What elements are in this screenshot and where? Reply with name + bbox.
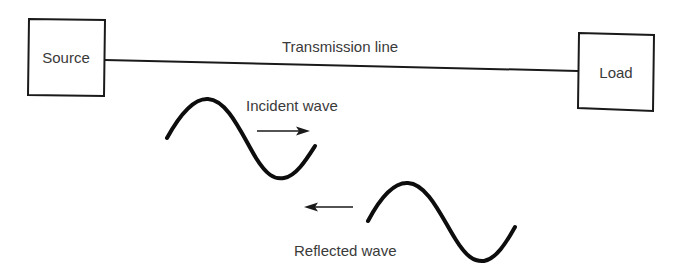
reflected-wave-group: Reflected wave: [294, 183, 515, 261]
load-label: Load: [599, 64, 632, 81]
load-node: Load: [578, 33, 654, 111]
incident-wave-group: Incident wave: [167, 97, 338, 178]
transmission-line-diagram: Transmission line Source Load Incident w…: [0, 0, 673, 277]
transmission-line: Transmission line: [105, 38, 578, 71]
transmission-line-connector: [105, 60, 578, 71]
incident-wave-label: Incident wave: [246, 97, 338, 114]
arrow-right-icon: [257, 127, 310, 136]
reflected-wave-label: Reflected wave: [294, 242, 397, 259]
source-node: Source: [28, 19, 105, 96]
source-label: Source: [42, 49, 90, 66]
transmission-line-label: Transmission line: [282, 38, 398, 55]
arrow-left-icon: [304, 203, 353, 212]
